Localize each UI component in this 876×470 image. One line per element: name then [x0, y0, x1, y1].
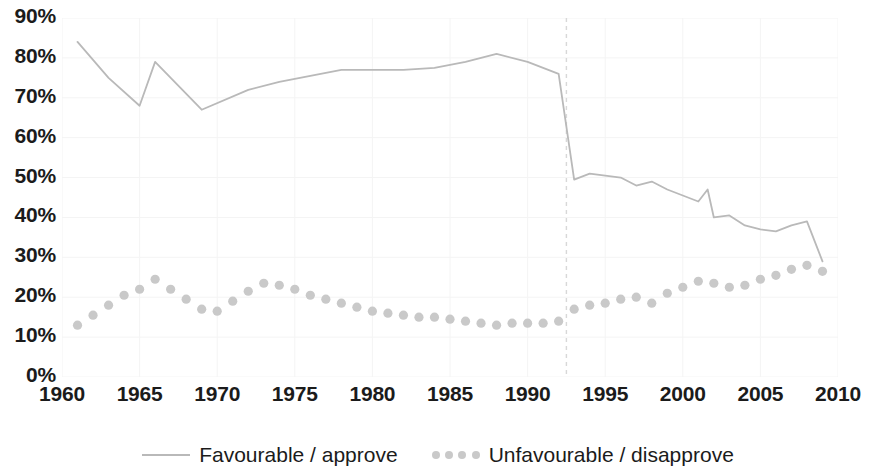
- x-axis-tick-label: 2000: [660, 382, 706, 406]
- legend-item-unfavourable: Unfavourable / disapprove: [432, 443, 734, 467]
- legend-label-favourable: Favourable / approve: [199, 443, 397, 467]
- series-marker: [725, 283, 734, 292]
- series-marker: [306, 291, 315, 300]
- x-axis-tick-label: 1990: [505, 382, 551, 406]
- series-marker: [430, 313, 439, 322]
- legend-dot: [458, 451, 466, 459]
- series-marker: [570, 305, 579, 314]
- series-marker: [616, 295, 625, 304]
- series-marker: [554, 317, 563, 326]
- series-marker: [104, 301, 113, 310]
- series-marker: [88, 311, 97, 320]
- series-marker: [151, 275, 160, 284]
- series-marker: [523, 319, 532, 328]
- series-marker: [802, 261, 811, 270]
- x-axis-tick-label: 1965: [117, 382, 163, 406]
- y-axis-tick-label: 60%: [0, 124, 56, 148]
- plot-area: [62, 18, 838, 377]
- dotted-line-swatch-icon: [432, 451, 480, 460]
- series-marker: [492, 321, 501, 330]
- series-marker: [244, 287, 253, 296]
- x-axis-tick-label: 2005: [737, 382, 783, 406]
- y-axis-tick-label: 40%: [0, 203, 56, 227]
- series-marker: [213, 307, 222, 316]
- series-marker: [166, 285, 175, 294]
- y-axis-tick-label: 90%: [0, 4, 56, 28]
- series-marker: [740, 281, 749, 290]
- series-marker: [414, 313, 423, 322]
- x-axis-tick-label: 1960: [39, 382, 85, 406]
- series-marker: [632, 293, 641, 302]
- series-marker: [539, 319, 548, 328]
- series-marker: [337, 299, 346, 308]
- series-marker: [321, 295, 330, 304]
- y-axis-tick-label: 10%: [0, 323, 56, 347]
- series-marker: [787, 265, 796, 274]
- x-axis-tick-label: 1970: [194, 382, 240, 406]
- y-axis-tick-label: 80%: [0, 44, 56, 68]
- x-axis: 1960196519701975198019851990199520002005…: [0, 382, 876, 414]
- series-marker: [228, 297, 237, 306]
- series-marker: [275, 281, 284, 290]
- y-axis-tick-label: 20%: [0, 283, 56, 307]
- series-marker: [135, 285, 144, 294]
- x-axis-tick-label: 1975: [272, 382, 318, 406]
- x-axis-tick-label: 1985: [427, 382, 473, 406]
- series-marker: [709, 279, 718, 288]
- series-marker: [259, 279, 268, 288]
- y-axis-tick-label: 30%: [0, 243, 56, 267]
- series-marker: [507, 319, 516, 328]
- y-axis-tick-label: 70%: [0, 84, 56, 108]
- series-marker: [73, 321, 82, 330]
- series-marker: [476, 319, 485, 328]
- series-marker: [663, 289, 672, 298]
- series-marker: [756, 275, 765, 284]
- series-marker: [771, 271, 780, 280]
- series-marker: [383, 309, 392, 318]
- series-marker: [197, 305, 206, 314]
- x-axis-tick-label: 1995: [582, 382, 628, 406]
- series-marker: [694, 277, 703, 286]
- legend-item-favourable: Favourable / approve: [142, 443, 397, 467]
- series-marker: [368, 307, 377, 316]
- legend-dot: [432, 451, 440, 459]
- series-marker: [290, 285, 299, 294]
- y-axis-tick-label: 50%: [0, 164, 56, 188]
- series-marker: [585, 301, 594, 310]
- chart-container: 0%10%20%30%40%50%60%70%80%90% 1960196519…: [0, 0, 876, 470]
- solid-line-swatch-icon: [142, 454, 190, 456]
- series-marker: [818, 267, 827, 276]
- legend-label-unfavourable: Unfavourable / disapprove: [489, 443, 734, 467]
- series-marker: [352, 303, 361, 312]
- x-axis-tick-label: 1980: [349, 382, 395, 406]
- legend-dot: [472, 451, 480, 459]
- chart-svg: [62, 18, 838, 377]
- legend-dot: [445, 451, 453, 459]
- series-marker: [182, 295, 191, 304]
- series-marker: [601, 299, 610, 308]
- series-marker: [445, 315, 454, 324]
- series-marker: [678, 283, 687, 292]
- series-marker: [119, 291, 128, 300]
- series-marker: [399, 311, 408, 320]
- series-marker: [461, 317, 470, 326]
- x-axis-tick-label: 2010: [815, 382, 861, 406]
- chart-legend: Favourable / approve Unfavourable / disa…: [0, 440, 876, 470]
- series-marker: [647, 299, 656, 308]
